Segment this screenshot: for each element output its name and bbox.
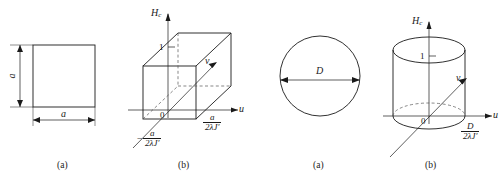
axis-label-hc-cylinder: Hc [412,16,422,27]
arrowhead-left-icon [33,117,40,123]
technical-figure: a a (a) Hc u v 1 0 a 2λJ′ − a 2λJ′ (b) D… [0,0,503,183]
axis-u-arrowhead-icon [485,114,492,119]
extent-label-right-box: a 2λJ′ [203,113,221,133]
extent-label-right-cylinder: D 2λJ′ [461,122,479,142]
diameter-arrowhead-left-icon [280,77,288,83]
tick-label-one-cylinder: 1 [420,52,425,61]
panel-circle-cross-section [280,36,360,116]
figure-linework [0,0,503,183]
extent-label-front-box: − a 2λJ′ [143,129,161,149]
axis-label-u-cylinder: u [493,110,498,120]
axis-hc-arrowhead-icon [427,21,432,29]
axis-hc-arrowhead-icon [166,13,171,21]
origin-label-cylinder: 0 [421,117,426,126]
axis-v-arrowhead-icon [209,62,218,68]
circle-outline [280,36,360,116]
panel-box-3d [128,13,238,148]
panel-square-cross-section [10,45,95,126]
square-height-label: a [7,70,17,82]
circle-diameter-label: D [316,66,323,76]
square-width-label: a [61,109,66,119]
axis-label-u-box: u [239,104,244,114]
axis-label-v-box: v [205,56,209,66]
axis-label-v-cylinder: v [456,73,460,83]
tick-label-one-box: 1 [159,43,164,52]
caption-panel-4: (b) [425,160,436,170]
axis-label-hc-box: Hc [151,8,161,19]
caption-panel-1: (a) [57,160,68,170]
origin-label-box: 0 [160,111,165,120]
caption-panel-2: (b) [178,160,189,170]
arrowhead-right-icon [88,117,95,123]
caption-panel-3: (a) [313,160,324,170]
arrowhead-up-icon [17,45,23,52]
diameter-arrowhead-right-icon [352,77,360,83]
axis-v [390,79,466,157]
square-outline [33,45,95,107]
arrowhead-down-icon [17,100,23,107]
box-edge-top-right [196,33,231,66]
axis-u-arrowhead-icon [231,108,238,113]
